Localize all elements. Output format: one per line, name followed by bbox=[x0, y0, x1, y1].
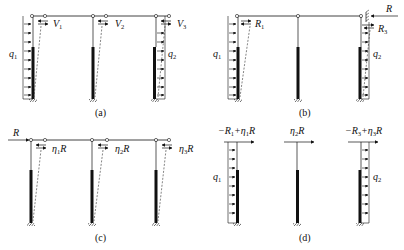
panel-a: q1 V1 V2 V3 bbox=[9, 14, 186, 119]
fixed-support-icon bbox=[152, 223, 160, 226]
reaction-force-icon bbox=[241, 21, 251, 24]
hinge bbox=[43, 14, 46, 17]
label-top-force-3: −R3+η3R bbox=[345, 125, 382, 137]
spring-force-icon bbox=[162, 145, 172, 148]
panel-d: −R1+η1R q1 η2R −R3+η3R bbox=[213, 125, 382, 244]
fixed-support-icon bbox=[88, 223, 96, 226]
load-arrows bbox=[24, 24, 31, 95]
deflected-shape bbox=[34, 26, 41, 97]
label-r3: R3 bbox=[377, 23, 387, 35]
reaction-force-icon bbox=[362, 25, 374, 28]
panel-c: R η1R η2R η3R bbox=[8, 127, 193, 244]
load-label-q2: q2 bbox=[168, 48, 176, 60]
deflected-shape bbox=[94, 150, 103, 221]
label-eta3-r: η3R bbox=[179, 143, 193, 155]
fixed-support-icon bbox=[89, 99, 97, 102]
spring-force-icon bbox=[38, 21, 48, 24]
spring-force-icon bbox=[98, 21, 108, 24]
spring-force-icon bbox=[161, 21, 171, 24]
caption-b: (b) bbox=[299, 107, 311, 119]
label-v1: V1 bbox=[53, 18, 62, 30]
fixed-support-icon bbox=[233, 223, 241, 226]
spring-force-icon bbox=[36, 145, 46, 148]
label-top-force-1: −R1+η1R bbox=[218, 125, 255, 137]
caption-d: (d) bbox=[299, 232, 311, 244]
bent-frame-diagram: q1 V1 V2 V3 bbox=[0, 0, 404, 250]
column-lower bbox=[32, 47, 35, 99]
deflected-shape bbox=[240, 26, 250, 97]
fixed-support-icon bbox=[293, 223, 301, 226]
fixed-support-icon bbox=[234, 99, 242, 102]
fixed-support-icon bbox=[29, 99, 37, 102]
load-arrows bbox=[229, 150, 235, 213]
load-label-q1: q1 bbox=[213, 171, 221, 183]
caption-c: (c) bbox=[95, 232, 106, 244]
load-arrows bbox=[362, 33, 368, 95]
label-eta1-r: η1R bbox=[52, 143, 66, 155]
deflected-shape bbox=[95, 26, 102, 97]
load-label-q2: q2 bbox=[373, 48, 381, 60]
panel-b: R R1 q1 bbox=[213, 3, 398, 119]
load-label-q1: q1 bbox=[9, 48, 17, 60]
label-v2: V2 bbox=[115, 18, 124, 30]
fixed-support-icon bbox=[27, 223, 35, 226]
hinge bbox=[167, 14, 170, 17]
fixed-support-icon bbox=[356, 99, 364, 102]
deflected-shape bbox=[33, 150, 41, 221]
fixed-support-icon bbox=[356, 223, 364, 226]
column-lower bbox=[153, 47, 156, 99]
column-lower bbox=[92, 47, 95, 99]
load-arrows bbox=[362, 150, 368, 213]
label-r1: R1 bbox=[254, 18, 264, 30]
load-label-q2: q2 bbox=[373, 171, 381, 183]
caption-a: (a) bbox=[95, 107, 106, 119]
deflected-shape bbox=[158, 26, 165, 97]
hinge bbox=[104, 14, 107, 17]
deflected-shape bbox=[158, 150, 166, 221]
label-v3: V3 bbox=[177, 18, 186, 30]
load-arrows bbox=[229, 24, 236, 95]
spring-force-icon bbox=[98, 145, 108, 148]
fixed-support-icon bbox=[151, 99, 159, 102]
label-applied-r: R bbox=[385, 3, 392, 14]
label-top-force-2: η2R bbox=[290, 125, 304, 137]
load-label-q1: q1 bbox=[213, 48, 221, 60]
load-arrows bbox=[157, 33, 164, 95]
label-eta2-r: η2R bbox=[115, 143, 129, 155]
fixed-support-icon bbox=[294, 99, 302, 102]
label-applied-r: R bbox=[12, 127, 19, 138]
